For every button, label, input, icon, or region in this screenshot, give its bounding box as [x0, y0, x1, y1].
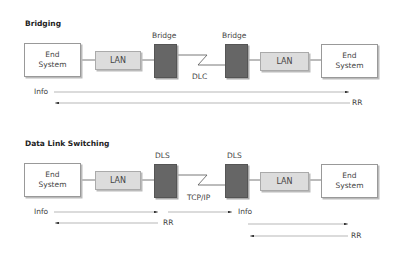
end-system-label-line1: End: [322, 51, 377, 61]
dls-right-device-label: DLS: [227, 151, 242, 160]
bridging-rr-label: RR: [352, 98, 362, 107]
bridging-right-end-system: End System: [321, 44, 378, 78]
dls-right-end-system: End System: [321, 164, 378, 198]
end-system-label-line2: System: [25, 180, 80, 190]
bridging-left-lan: LAN: [95, 51, 141, 70]
bridge-device-right: [225, 44, 248, 78]
bridging-title: Bridging: [25, 19, 61, 28]
dls-info-label-left: Info: [34, 207, 48, 216]
dls-device-right: [225, 164, 248, 198]
dls-title: Data Link Switching: [25, 139, 109, 148]
bridge-device-left: [154, 44, 177, 78]
end-system-label-line1: End: [25, 50, 80, 60]
dls-rr-label-right: RR: [351, 231, 361, 240]
bridging-info-label: Info: [34, 87, 48, 96]
end-system-label-line1: End: [322, 171, 377, 181]
dls-wan-label: TCP/IP: [187, 193, 210, 202]
bridging-left-device-label: Bridge: [152, 31, 176, 40]
bridging-wan-label: DLC: [192, 72, 207, 81]
end-system-label-line2: System: [322, 61, 377, 71]
dls-left-lan: LAN: [95, 171, 141, 190]
dls-right-lan: LAN: [260, 172, 309, 191]
end-system-label-line2: System: [322, 181, 377, 191]
bridging-right-device-label: Bridge: [222, 31, 246, 40]
bridging-right-lan: LAN: [260, 52, 309, 71]
dls-left-device-label: DLS: [155, 151, 170, 160]
connector-lines: [0, 0, 399, 257]
bridging-left-end-system: End System: [24, 43, 81, 77]
dls-rr-label-left: RR: [163, 218, 173, 227]
end-system-label-line2: System: [25, 60, 80, 70]
dls-device-left: [154, 164, 177, 198]
dls-info-label-middle: Info: [238, 207, 252, 216]
end-system-label-line1: End: [25, 170, 80, 180]
dls-left-end-system: End System: [24, 163, 81, 197]
